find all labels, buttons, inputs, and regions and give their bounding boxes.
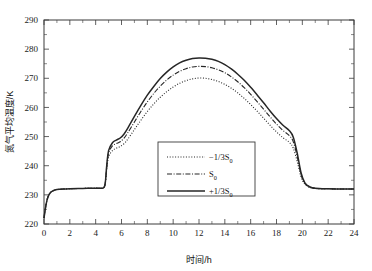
legend-label-subscript: 0 [229, 157, 232, 164]
chart-background [0, 0, 372, 271]
x-axis-title: 时间/h [186, 254, 212, 265]
x-tick-label: 24 [350, 228, 360, 238]
legend-label-subscript: 0 [229, 191, 232, 198]
x-tick-label: 0 [42, 228, 47, 238]
chart-figure: 220230240250260270280290 024681012141618… [0, 0, 372, 271]
y-tick-label: 270 [25, 73, 39, 83]
y-tick-label: 280 [25, 44, 39, 54]
x-tick-label: 14 [220, 228, 230, 238]
chart-legend: −1/3S0S0+1/3S0 [158, 142, 255, 198]
legend-label: +1/3S0 [209, 186, 232, 197]
legend-box [158, 142, 255, 196]
x-tick-label: 10 [169, 228, 179, 238]
x-tick-label: 22 [324, 228, 333, 238]
y-tick-label: 250 [25, 132, 39, 142]
y-tick-label: 230 [25, 190, 39, 200]
legend-label-subscript: 0 [214, 174, 217, 181]
x-tick-label: 8 [145, 228, 150, 238]
y-tick-label: 240 [25, 161, 39, 171]
x-tick-label: 12 [195, 228, 204, 238]
x-tick-label: 16 [246, 228, 256, 238]
y-tick-label: 260 [25, 103, 39, 113]
x-tick-label: 18 [272, 228, 282, 238]
x-tick-label: 4 [93, 228, 98, 238]
x-tick-label: 6 [119, 228, 124, 238]
y-tick-label: 290 [25, 15, 39, 25]
legend-label: −1/3S0 [209, 152, 232, 163]
temperature-line-chart: 220230240250260270280290 024681012141618… [0, 0, 372, 271]
x-tick-label: 2 [68, 228, 73, 238]
y-tick-label: 220 [25, 219, 39, 229]
y-axis-title: 氮气平均温度/K [4, 91, 15, 154]
x-tick-label: 20 [298, 228, 308, 238]
